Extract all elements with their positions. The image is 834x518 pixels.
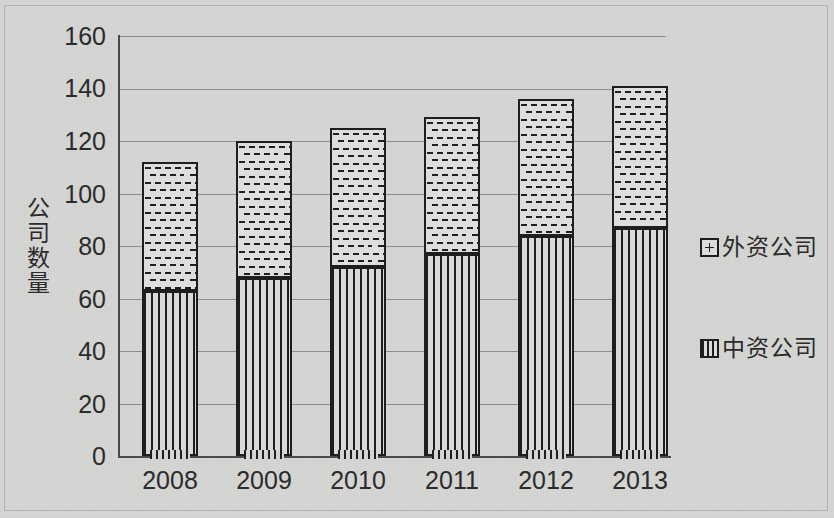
gridline	[118, 36, 666, 37]
chart-figure: 公司数量 160 140 120 100 80 60 40 20 0	[0, 0, 834, 518]
gridline	[118, 404, 666, 405]
y-axis-line	[118, 35, 120, 457]
y-axis-tick-labels: 160 140 120 100 80 60 40 20 0	[28, 0, 106, 518]
legend-label-foreign: 外资公司	[722, 236, 818, 259]
bar-2012[interactable]	[518, 99, 574, 456]
bar-2010[interactable]	[330, 128, 386, 456]
y-tick-label: 20	[36, 392, 106, 417]
bar-segment-foreign[interactable]	[612, 86, 668, 228]
bar-2008[interactable]	[142, 162, 198, 456]
y-tick-label: 160	[36, 24, 106, 49]
gridline	[118, 141, 666, 142]
bar-segment-foreign[interactable]	[236, 141, 292, 278]
bar-segment-foreign[interactable]	[424, 117, 480, 254]
x-tick-mark	[620, 450, 660, 459]
y-tick-label: 0	[36, 444, 106, 469]
bar-2013[interactable]	[612, 86, 668, 456]
gridline	[118, 351, 666, 352]
bar-2011[interactable]	[424, 117, 480, 456]
legend-swatch-dotted-icon	[700, 238, 719, 257]
y-tick-label: 140	[36, 76, 106, 101]
legend-item-domestic[interactable]: 中资公司	[700, 337, 828, 360]
legend-label-domestic: 中资公司	[722, 337, 818, 360]
gridline	[118, 246, 666, 247]
gridline	[118, 299, 666, 300]
bar-segment-foreign[interactable]	[330, 128, 386, 267]
y-tick-label: 80	[36, 234, 106, 259]
x-tick-mark	[244, 450, 284, 459]
gridline	[118, 89, 666, 90]
bar-segment-domestic[interactable]	[330, 267, 386, 456]
y-tick-label: 120	[36, 129, 106, 154]
legend-swatch-striped-icon	[700, 339, 719, 358]
y-tick-label: 40	[36, 339, 106, 364]
gridline	[118, 194, 666, 195]
legend: 外资公司 中资公司	[700, 236, 828, 360]
plot-area	[118, 36, 666, 456]
x-tick-mark	[338, 450, 378, 459]
y-tick-label: 100	[36, 182, 106, 207]
bar-segment-domestic[interactable]	[142, 291, 198, 456]
bar-segment-domestic[interactable]	[518, 236, 574, 457]
y-tick-label: 60	[36, 287, 106, 312]
bar-2009[interactable]	[236, 141, 292, 456]
bar-segment-domestic[interactable]	[612, 228, 668, 456]
x-tick-mark	[526, 450, 566, 459]
x-tick-label-2013: 2013	[585, 468, 695, 493]
x-tick-mark	[150, 450, 190, 459]
x-tick-mark	[432, 450, 472, 459]
bar-segment-foreign[interactable]	[518, 99, 574, 236]
bar-segment-domestic[interactable]	[236, 278, 292, 457]
bar-segment-foreign[interactable]	[142, 162, 198, 291]
x-axis-line	[118, 456, 671, 458]
legend-item-foreign[interactable]: 外资公司	[700, 236, 828, 259]
bar-segment-domestic[interactable]	[424, 254, 480, 456]
